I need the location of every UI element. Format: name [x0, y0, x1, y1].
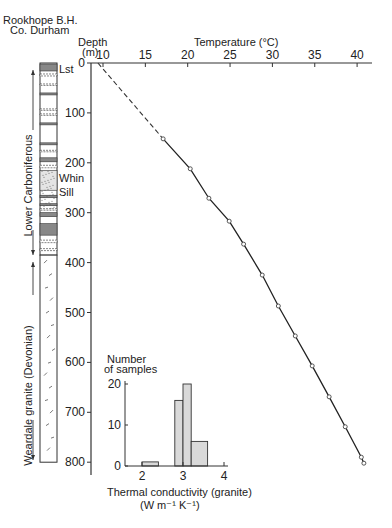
limestone-band: [40, 213, 57, 217]
measured-line: [163, 139, 364, 463]
data-point-marker: [207, 196, 211, 200]
shale-band: [40, 249, 57, 251]
data-point-marker: [343, 425, 347, 429]
shale-band: [40, 74, 57, 76]
stipple-dot: [53, 194, 54, 195]
stipple-dot: [42, 191, 43, 192]
y-tick-label: 100: [65, 106, 85, 120]
stipple-dot: [42, 182, 43, 183]
y-tick-label: 800: [65, 455, 85, 469]
stipple-dot: [47, 196, 48, 197]
limestone-band: [40, 224, 57, 235]
shale-band: [40, 109, 57, 110]
stipple-dot: [51, 188, 52, 189]
arrow-down-granite-head: [31, 455, 35, 460]
limestone-band: [40, 195, 57, 197]
stipple-dot: [45, 199, 46, 200]
histogram-y-tick-label: 10: [108, 418, 122, 432]
limestone-band: [40, 143, 57, 145]
shale-band: [40, 84, 57, 85]
arrow-down-carboniferous-head: [31, 250, 35, 255]
shale-band: [40, 209, 57, 210]
histogram-y-tick-label: 0: [114, 459, 121, 473]
stipple-dot: [44, 206, 45, 207]
y-tick-label: 500: [65, 306, 85, 320]
histogram-bar: [191, 441, 207, 466]
x-tick-label: 15: [139, 48, 153, 62]
x-tick-label: 25: [223, 48, 237, 62]
data-point-marker: [188, 167, 192, 171]
stipple-dot: [54, 178, 55, 179]
stipple-dot: [46, 174, 47, 175]
stipple-dot: [53, 176, 54, 177]
limestone-band: [40, 204, 57, 206]
y-tick-label: 600: [65, 355, 85, 369]
data-point-marker: [310, 364, 314, 368]
stipple-dot: [50, 186, 51, 187]
lithology-column: [31, 63, 57, 462]
data-point-marker: [327, 395, 331, 399]
stipple-dot: [51, 208, 52, 209]
histogram-bar: [183, 384, 191, 466]
stipple-dot: [49, 182, 50, 183]
stipple-dot: [43, 175, 44, 176]
data-point-marker: [161, 137, 165, 141]
stipple-dot: [50, 204, 51, 205]
stipple-dot: [49, 173, 50, 174]
stipple-dot: [47, 205, 48, 206]
limestone-band: [40, 93, 57, 95]
shale-band: [40, 240, 57, 242]
axes: 101520253035400100200300400500600700800: [65, 48, 372, 475]
temperature-depth-plot: 101520253035400100200300400500600700800 …: [0, 0, 392, 528]
stipple-dot: [48, 171, 49, 172]
stipple-dot: [45, 181, 46, 182]
limestone-band: [40, 64, 57, 71]
y-tick-label: 700: [65, 405, 85, 419]
temperature-profile: [98, 63, 366, 465]
y-tick-label: 200: [65, 156, 85, 170]
conductivity-histogram: 01020234: [108, 377, 228, 483]
arrow-up-carboniferous-head: [31, 70, 35, 75]
data-point-marker: [362, 461, 366, 465]
stipple-dot: [43, 184, 44, 185]
histogram-x-tick-label: 4: [221, 469, 228, 483]
data-point-marker: [227, 219, 231, 223]
stipple-dot: [49, 202, 50, 203]
x-tick-label: 30: [266, 48, 280, 62]
stipple-dot: [53, 185, 54, 186]
stipple-dot: [42, 171, 43, 172]
stipple-dot: [48, 180, 49, 181]
stipple-dot: [50, 195, 51, 196]
stipple-dot: [52, 192, 53, 193]
stipple-dot: [45, 190, 46, 191]
limestone-band: [40, 123, 57, 125]
histogram-x-tick-label: 2: [139, 469, 146, 483]
stipple-dot: [46, 183, 47, 184]
shale-band: [40, 165, 57, 167]
stipple-dot: [48, 189, 49, 190]
x-tick-label: 20: [181, 48, 195, 62]
data-point-marker: [293, 334, 297, 338]
histogram-y-tick-label: 20: [108, 377, 122, 391]
stipple-dot: [51, 179, 52, 180]
y-tick-label: 0: [78, 56, 85, 70]
histogram-x-tick-label: 3: [180, 469, 187, 483]
granite-column: [40, 255, 57, 462]
data-point-marker: [276, 304, 280, 308]
data-point-marker: [260, 273, 264, 277]
stipple-dot: [54, 198, 55, 199]
x-tick-label: 40: [350, 48, 364, 62]
y-tick-label: 400: [65, 256, 85, 270]
stipple-dot: [52, 201, 53, 202]
shale-band: [40, 150, 57, 151]
data-point-marker: [359, 455, 363, 459]
stipple-dot: [52, 172, 53, 173]
whin-sill-band: [40, 170, 57, 190]
shale-band: [40, 114, 57, 115]
stipple-dot: [43, 193, 44, 194]
x-tick-label: 35: [308, 48, 322, 62]
histogram-bar: [142, 462, 158, 466]
y-tick-label: 300: [65, 206, 85, 220]
histogram-bar: [175, 400, 183, 466]
stipple-dot: [44, 197, 45, 198]
